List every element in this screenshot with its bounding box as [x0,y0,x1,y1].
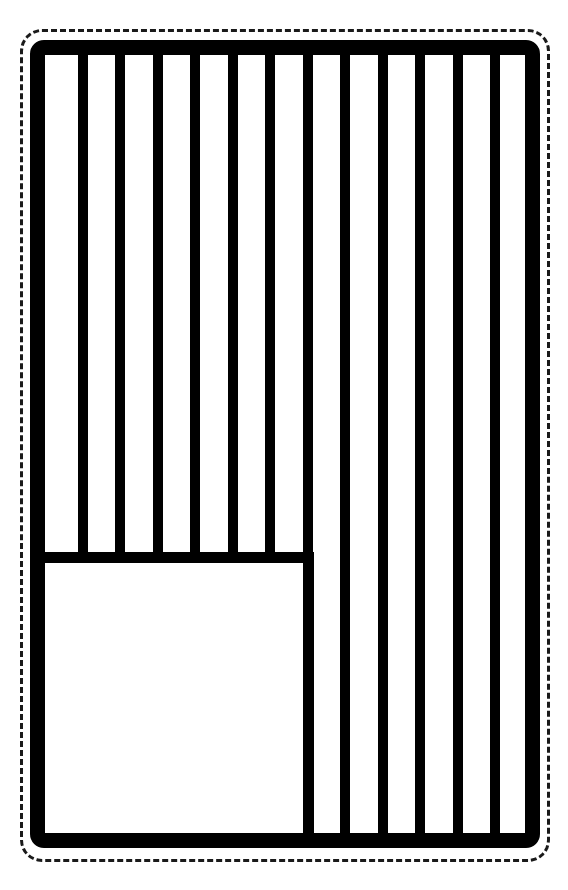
coloring-page-canvas [0,0,568,890]
flag-stripe-13 [500,55,525,833]
flag-stripe-11 [425,55,453,833]
stripe-divider-12 [490,55,500,833]
stripe-divider-9 [378,55,388,833]
canton-right-rule [303,552,314,833]
flag-stripe-10 [388,55,415,833]
stripe-divider-11 [453,55,463,833]
canton-field [45,563,303,833]
flag-stripe-12 [463,55,490,833]
stripe-divider-10 [415,55,425,833]
stripe-divider-8 [340,55,350,833]
flag-stripe-8 [313,55,340,833]
flag-stripe-9 [350,55,378,833]
flag-outer-frame [30,40,540,848]
canton-top-rule [45,552,314,563]
flag-drawing-field [45,55,525,833]
